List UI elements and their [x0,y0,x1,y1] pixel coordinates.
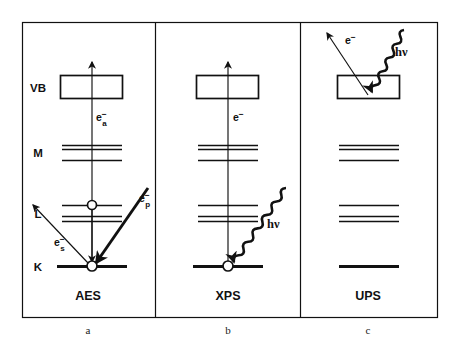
level-label-m: M [33,147,43,159]
k-shell-hole [87,261,97,271]
incident-photon-label: hν [267,217,280,231]
photoelectron-label: e− [345,32,356,46]
annotation-superscript: − [60,234,65,244]
panel-xps: hνe−XPS [193,62,286,303]
technique-label-xps: XPS [215,289,240,303]
figure-canvas: VBMLKe−ae−pe−sAEShνe−XPShνe−UPS abc [0,0,454,348]
annotation-superscript: − [351,32,356,42]
l-shell-hole [88,201,97,210]
level-label-k: K [34,261,43,273]
level-label-vb: VB [30,82,46,94]
panel-caption-aes: a [68,324,108,336]
technique-label-aes: AES [75,289,101,303]
annotation-subscript: p [145,200,150,209]
panel-caption-xps: b [208,324,248,336]
annotation-subscript: s [60,244,65,253]
annotation-subscript: a [102,119,107,128]
primary-electron-label: e−p [139,190,150,209]
panel-aes: VBMLKe−ae−pe−sAES [30,62,150,303]
level-label-l: L [34,208,41,220]
technique-label-ups: UPS [355,289,381,303]
auger-electron-label: e−a [96,109,107,128]
annotation-superscript: − [145,190,150,200]
figure-frame [23,23,438,318]
incident-photon-label: hν [395,45,408,59]
valence-band-box [338,76,400,99]
secondary-electron-label: e−s [54,234,65,253]
annotation-superscript: − [239,109,244,119]
k-shell-hole [223,261,233,271]
panel-caption-ups: c [348,324,388,336]
spectroscopy-diagram: VBMLKe−ae−pe−sAEShνe−XPShνe−UPS [0,0,454,348]
photoelectron-label: e− [233,109,244,123]
annotation-superscript: − [102,109,107,119]
panel-ups: hνe−UPS [327,30,408,303]
